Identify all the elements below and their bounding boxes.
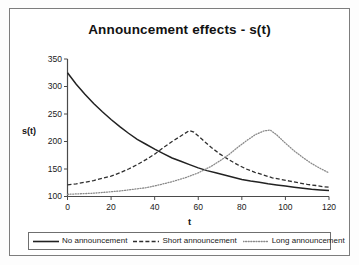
dashed-line-swatch [133, 238, 159, 245]
legend-item[interactable]: Long announcement [243, 237, 345, 245]
legend-item[interactable]: No announcement [33, 237, 127, 245]
chart-figure: Announcement effects - s(t) s(t) t 10015… [0, 0, 359, 265]
x-tick-label: 20 [95, 202, 127, 212]
series-line-2 [68, 130, 330, 194]
legend-label: Long announcement [272, 237, 345, 245]
y-tick-label: 200 [30, 136, 62, 146]
x-axis-label: t [188, 216, 191, 227]
legend-label: Short announcement [162, 237, 236, 245]
series-line-1 [68, 131, 330, 188]
axes [64, 59, 329, 200]
y-tick-label: 150 [30, 164, 62, 174]
x-tick-label: 0 [52, 202, 84, 212]
y-tick-label: 300 [30, 81, 62, 91]
chart-legend: No announcementShort announcementLong an… [28, 232, 331, 250]
x-tick-label: 100 [269, 202, 301, 212]
data-series-group [68, 73, 330, 195]
y-tick-label: 100 [30, 191, 62, 201]
plot-area [0, 0, 359, 265]
dotted-line-swatch [243, 238, 269, 245]
x-tick-label: 120 [313, 202, 345, 212]
y-tick-label: 250 [30, 109, 62, 119]
x-tick-label: 60 [182, 202, 214, 212]
legend-item[interactable]: Short announcement [133, 237, 236, 245]
x-tick-label: 80 [226, 202, 258, 212]
y-tick-label: 350 [30, 54, 62, 64]
solid-line-swatch [33, 238, 59, 245]
y-axis-label: s(t) [22, 126, 36, 136]
legend-label: No announcement [62, 237, 127, 245]
x-tick-label: 40 [139, 202, 171, 212]
